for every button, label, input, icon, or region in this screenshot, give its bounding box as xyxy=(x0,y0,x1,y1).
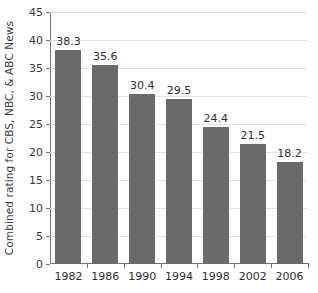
bar xyxy=(55,50,81,264)
x-axis-tick-mark xyxy=(234,263,235,268)
y-axis-tick-mark xyxy=(46,180,50,181)
bar-value-label: 35.6 xyxy=(93,50,118,63)
bar-chart: Combined rating for CBS, NBC, & ABC News… xyxy=(0,0,318,293)
gridline xyxy=(50,68,308,69)
bar xyxy=(166,99,192,264)
x-axis-tick-mark xyxy=(87,263,88,268)
y-axis-tick-label: 0 xyxy=(36,258,43,271)
y-axis-title: Combined rating for CBS, NBC, & ABC News xyxy=(0,0,18,276)
x-axis-tick-label: 1998 xyxy=(202,270,230,283)
bar-value-label: 30.4 xyxy=(130,79,155,92)
y-axis-tick-mark xyxy=(46,264,50,265)
y-axis-tick-mark xyxy=(46,152,50,153)
x-axis-tick-label: 2006 xyxy=(276,270,304,283)
gridline xyxy=(50,40,308,41)
bar xyxy=(92,65,118,264)
bar-value-label: 21.5 xyxy=(240,129,265,142)
gridline xyxy=(50,12,308,13)
x-axis-tick-mark xyxy=(124,263,125,268)
x-axis-tick-label: 1994 xyxy=(165,270,193,283)
x-axis-tick-mark xyxy=(308,263,309,268)
y-axis-tick-mark xyxy=(46,96,50,97)
y-axis-tick-mark xyxy=(46,124,50,125)
y-axis-tick-label: 35 xyxy=(29,62,43,75)
y-axis-tick-label: 5 xyxy=(36,230,43,243)
y-axis-tick-label: 30 xyxy=(29,90,43,103)
bar-value-label: 24.4 xyxy=(204,112,229,125)
x-axis-tick-label: 1990 xyxy=(128,270,156,283)
y-axis-tick-label: 25 xyxy=(29,118,43,131)
x-axis-tick-mark xyxy=(197,263,198,268)
y-axis-tick-label: 40 xyxy=(29,34,43,47)
y-axis-tick-mark xyxy=(46,40,50,41)
x-axis-tick-mark xyxy=(271,263,272,268)
y-axis-tick-mark xyxy=(46,12,50,13)
bar-value-label: 29.5 xyxy=(167,84,192,97)
y-axis-tick-label: 45 xyxy=(29,6,43,19)
bar xyxy=(129,94,155,264)
x-axis-tick-label: 1982 xyxy=(54,270,82,283)
y-axis-tick-mark xyxy=(46,68,50,69)
bar-value-label: 18.2 xyxy=(277,147,302,160)
x-axis-tick-label: 2002 xyxy=(239,270,267,283)
x-axis-tick-label: 1986 xyxy=(91,270,119,283)
y-axis-tick-label: 15 xyxy=(29,174,43,187)
y-axis-tick-label: 20 xyxy=(29,146,43,159)
y-axis-tick-mark xyxy=(46,208,50,209)
bar xyxy=(240,144,266,264)
y-axis-tick-label: 10 xyxy=(29,202,43,215)
bar-value-label: 38.3 xyxy=(56,35,81,48)
y-axis-tick-mark xyxy=(46,236,50,237)
plot-area: 051015202530354045 38.335.630.429.524.42… xyxy=(50,12,308,264)
bar xyxy=(277,162,303,264)
bar xyxy=(203,127,229,264)
y-axis-title-text: Combined rating for CBS, NBC, & ABC News xyxy=(3,21,15,255)
x-axis-tick-mark xyxy=(161,263,162,268)
